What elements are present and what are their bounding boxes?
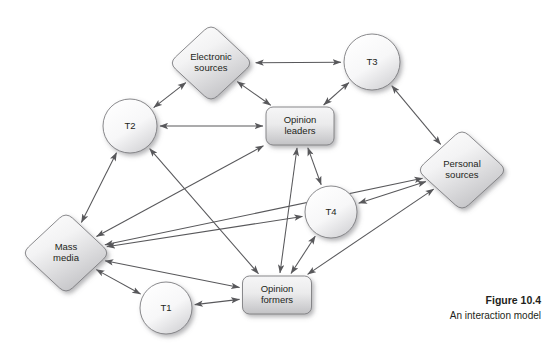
edge-opinion_leaders-to-opinion_formers — [280, 148, 297, 273]
node-t4[interactable]: T4 — [305, 186, 357, 238]
node-opinion_formers[interactable]: Opinionformers — [243, 276, 312, 314]
edge-t2-to-opinion_formers — [150, 149, 259, 274]
node-electronic_sources[interactable]: Electronicsources — [172, 27, 249, 99]
edge-t2-to-mass_media — [81, 153, 116, 223]
node-shape-rounded-rect — [243, 276, 312, 314]
edge-t3-to-personal_sources — [392, 86, 441, 145]
figure-number: Figure 10.4 — [366, 293, 541, 307]
node-shape-circle — [103, 99, 157, 153]
edge-t4-to-opinion_formers — [291, 236, 315, 273]
figure-caption: Figure 10.4 An interaction model — [366, 293, 541, 323]
node-personal_sources[interactable]: Personalsources — [420, 132, 503, 208]
edge-electronic_sources-to-t2 — [154, 83, 186, 108]
edge-opinion_leaders-to-mass_media — [96, 146, 263, 237]
edge-t3-to-opinion_leaders — [324, 83, 349, 105]
node-shape-circle — [140, 282, 192, 334]
edge-t4-to-mass_media — [107, 216, 303, 246]
nodes-layer: ElectronicsourcesT3T2OpinionleadersPerso… — [25, 27, 503, 334]
edge-electronic_sources-to-opinion_leaders — [237, 82, 270, 106]
node-shape-rounded-rect — [266, 107, 334, 145]
node-shape-circle — [344, 34, 400, 90]
node-t2[interactable]: T2 — [103, 99, 157, 153]
node-shape-diamond — [25, 215, 106, 291]
edge-mass_media-to-t1 — [96, 270, 140, 294]
node-t3[interactable]: T3 — [344, 34, 400, 90]
edge-personal_sources-to-mass_media — [105, 178, 423, 245]
edge-electronic_sources-to-t3 — [256, 62, 341, 63]
edge-opinion_leaders-to-t4 — [308, 148, 321, 185]
figure-container: ElectronicsourcesT3T2OpinionleadersPerso… — [0, 0, 553, 354]
node-mass_media[interactable]: Massmedia — [25, 215, 106, 291]
node-shape-circle — [305, 186, 357, 238]
node-opinion_leaders[interactable]: Opinionleaders — [266, 107, 334, 145]
node-shape-diamond — [420, 132, 503, 208]
edge-t1-to-opinion_formers — [195, 299, 240, 304]
figure-caption-text: An interaction model — [366, 309, 541, 323]
node-shape-diamond — [172, 27, 249, 99]
edges-layer — [81, 62, 440, 304]
node-t1[interactable]: T1 — [140, 282, 192, 334]
